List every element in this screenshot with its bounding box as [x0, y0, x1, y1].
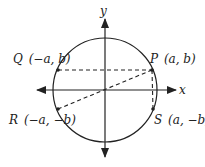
label-p-coords: (a, b): [164, 52, 196, 66]
point-q: [56, 68, 60, 72]
label-s-coords: (a, −b): [168, 113, 205, 127]
label-q-coords: (−a, b): [29, 52, 71, 66]
label-r-name: R: [8, 113, 18, 127]
label-s-name: S: [154, 113, 162, 127]
point-r: [56, 107, 60, 111]
label-r-coords: (−a, −b): [24, 113, 76, 127]
symmetry-diagram: y x P (a, b) Q (−a, b) R (−a, −b) S (a, …: [0, 0, 205, 167]
label-q: Q (−a, b): [13, 52, 71, 66]
label-p: P (a, b): [149, 52, 196, 66]
label-r: R (−a, −b): [8, 113, 76, 127]
label-p-name: P: [149, 52, 159, 66]
point-s: [151, 107, 155, 111]
label-q-name: Q: [13, 52, 23, 66]
y-axis-label: y: [99, 4, 107, 18]
x-axis-label: x: [179, 83, 186, 97]
point-p: [150, 68, 154, 72]
label-s: S (a, −b): [154, 113, 205, 127]
